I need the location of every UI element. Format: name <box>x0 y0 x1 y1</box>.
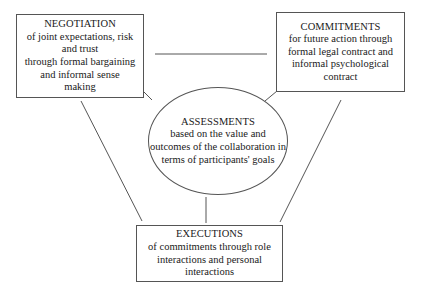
executions-line: interactions and personal <box>140 254 279 267</box>
negotiation-line: making <box>20 81 140 94</box>
negotiation-title: NEGOTIATION <box>20 18 140 31</box>
commitments-line: formal legal contract and <box>280 46 401 59</box>
commitments-line: contract <box>280 71 401 84</box>
commitments-box: COMMITMENTS for future action through fo… <box>276 12 405 92</box>
assessments-line: terms of participants' goals <box>149 154 287 167</box>
assessments-ellipse: ASSESSMENTS based on the value and outco… <box>148 87 288 195</box>
negotiation-line: and trust <box>20 43 140 56</box>
negotiation-box: NEGOTIATION of joint expectations, risk … <box>16 14 144 98</box>
commitments-executions-connector <box>280 100 341 222</box>
commitments-line: informal psychological <box>280 58 401 71</box>
assessments-line: outcomes of the collaboration in <box>149 141 287 154</box>
executions-line: interactions <box>140 266 279 279</box>
assessments-line: based on the value and <box>149 128 287 141</box>
negotiation-assessments-connector <box>143 91 152 100</box>
commitments-assessments-connector <box>265 91 277 101</box>
negotiation-executions-connector <box>81 101 142 221</box>
negotiation-line: and informal sense <box>20 69 140 82</box>
executions-line: of commitments through role <box>140 241 279 254</box>
executions-title: EXECUTIONS <box>140 228 279 241</box>
commitments-title: COMMITMENTS <box>280 21 401 34</box>
assessments-title: ASSESSMENTS <box>149 116 287 129</box>
commitments-line: for future action through <box>280 33 401 46</box>
executions-box: EXECUTIONS of commitments through role i… <box>136 225 283 282</box>
negotiation-line: of joint expectations, risk <box>20 31 140 44</box>
negotiation-line: through formal bargaining <box>20 56 140 69</box>
